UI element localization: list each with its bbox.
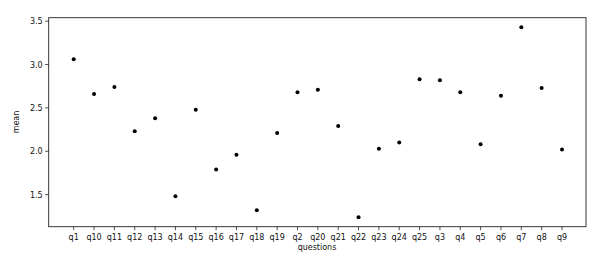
y-tick-label: 3.5 bbox=[30, 17, 43, 26]
x-tick-label: q20 bbox=[310, 233, 325, 242]
x-tick-label: q2 bbox=[292, 233, 302, 242]
x-tick-label: q17 bbox=[229, 233, 244, 242]
data-point-q2 bbox=[296, 90, 300, 94]
x-tick-label: q13 bbox=[147, 233, 162, 242]
x-axis-label: questions bbox=[298, 243, 337, 252]
data-point-q9 bbox=[560, 148, 564, 152]
x-tick-label: q5 bbox=[476, 233, 486, 242]
data-point-q24 bbox=[397, 141, 401, 145]
chart-background bbox=[0, 0, 605, 265]
x-tick-label: q24 bbox=[392, 233, 407, 242]
data-point-q6 bbox=[499, 94, 503, 98]
data-point-q22 bbox=[357, 215, 361, 219]
x-tick-label: q4 bbox=[455, 233, 465, 242]
x-tick-label: q6 bbox=[496, 233, 506, 242]
data-point-q1 bbox=[72, 57, 76, 61]
y-tick-label: 1.5 bbox=[30, 191, 43, 200]
x-tick-label: q11 bbox=[107, 233, 122, 242]
y-tick-label: 2.5 bbox=[30, 104, 43, 113]
x-tick-label: q19 bbox=[270, 233, 285, 242]
x-tick-label: q7 bbox=[516, 233, 526, 242]
data-point-q4 bbox=[458, 90, 462, 94]
x-tick-label: q8 bbox=[537, 233, 547, 242]
x-tick-label: q16 bbox=[208, 233, 223, 242]
x-tick-label: q23 bbox=[371, 233, 386, 242]
scatter-chart: 1.52.02.53.03.5 q1q10q11q12q13q14q15q16q… bbox=[0, 0, 605, 265]
x-tick-label: q21 bbox=[331, 233, 346, 242]
data-point-q13 bbox=[153, 116, 157, 120]
data-point-q23 bbox=[377, 147, 381, 151]
y-tick-label: 2.0 bbox=[30, 147, 43, 156]
y-tick-label: 3.0 bbox=[30, 61, 43, 70]
data-point-q21 bbox=[336, 124, 340, 128]
data-point-q25 bbox=[418, 77, 422, 81]
x-tick-label: q10 bbox=[86, 233, 101, 242]
x-tick-label: q1 bbox=[69, 233, 79, 242]
data-point-q20 bbox=[316, 88, 320, 92]
x-tick-label: q3 bbox=[435, 233, 445, 242]
data-point-q17 bbox=[234, 153, 238, 157]
x-tick-label: q12 bbox=[127, 233, 142, 242]
x-tick-label: q25 bbox=[412, 233, 427, 242]
data-point-q11 bbox=[112, 85, 116, 89]
data-point-q18 bbox=[255, 208, 259, 212]
data-point-q3 bbox=[438, 78, 442, 82]
data-point-q7 bbox=[519, 25, 523, 29]
x-tick-label: q15 bbox=[188, 233, 203, 242]
data-point-q14 bbox=[173, 194, 177, 198]
data-point-q16 bbox=[214, 167, 218, 171]
data-point-q15 bbox=[194, 108, 198, 112]
data-point-q5 bbox=[479, 142, 483, 146]
y-axis-label: mean bbox=[12, 111, 21, 134]
x-tick-label: q22 bbox=[351, 233, 366, 242]
data-point-q12 bbox=[133, 129, 137, 133]
data-point-q10 bbox=[92, 92, 96, 96]
data-point-q8 bbox=[540, 86, 544, 90]
x-tick-label: q18 bbox=[249, 233, 264, 242]
x-tick-label: q9 bbox=[557, 233, 567, 242]
x-tick-label: q14 bbox=[168, 233, 183, 242]
data-point-q19 bbox=[275, 131, 279, 135]
